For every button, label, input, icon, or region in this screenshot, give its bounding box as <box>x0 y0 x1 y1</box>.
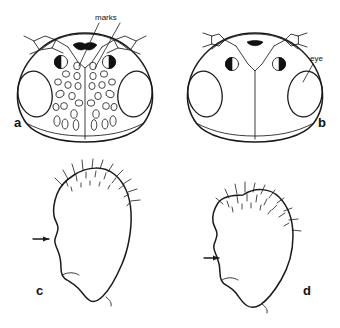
setae-c <box>55 159 140 206</box>
panel-letter-a: a <box>14 115 22 130</box>
antennal-base-right-b <box>274 33 307 47</box>
pale-markings-left-a <box>52 62 83 130</box>
ocellus-right-a <box>102 55 115 68</box>
ocellus-left-a <box>54 55 67 68</box>
annotation-eye-label: eye <box>310 54 323 63</box>
scientific-figure-svg: a marks <box>0 0 340 328</box>
ocellus-left-b <box>225 57 238 70</box>
panel-c: c <box>33 159 140 306</box>
antennal-base-left-b <box>203 33 236 47</box>
ventral-process-d <box>222 278 238 280</box>
frontal-suture-b <box>236 46 274 71</box>
eye-leader-line <box>303 64 313 82</box>
panel-b: b <box>184 33 326 142</box>
panel-a: a <box>14 33 156 142</box>
ocellus-right-b <box>272 57 285 70</box>
panel-letter-d: d <box>303 283 311 298</box>
panel-letter-c: c <box>36 283 43 298</box>
ventral-tip-d <box>262 304 267 313</box>
median-dark-mark-a <box>73 43 97 50</box>
figure-root: a marks <box>0 0 340 328</box>
panel-letter-b: b <box>318 115 326 130</box>
ventral-tip-c <box>106 297 111 306</box>
annotation-marks-label: marks <box>95 13 117 22</box>
lateral-outline-d <box>213 190 293 308</box>
marks-leader-line-2 <box>95 23 120 68</box>
median-dark-mark-b <box>247 41 263 46</box>
ventral-process-c <box>62 273 79 275</box>
panel-d: d <box>204 182 311 313</box>
pale-markings-right-a <box>87 62 118 130</box>
